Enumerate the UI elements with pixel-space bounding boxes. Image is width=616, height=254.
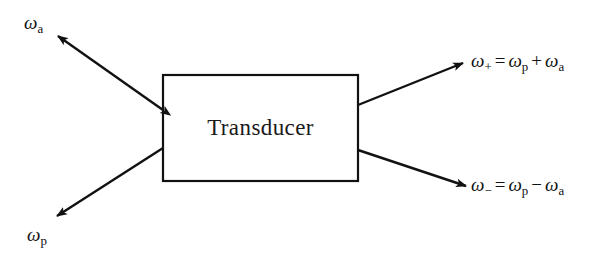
- omega-minus-lhs-subscript: −: [484, 183, 491, 198]
- arrow-omega-plus: [358, 63, 463, 105]
- label-omega-a: ωa: [24, 12, 43, 37]
- omega-plus-operator: +: [528, 50, 545, 71]
- label-omega-minus-equation: ω−=ωp−ωa: [471, 174, 564, 199]
- label-omega-p: ωp: [27, 224, 47, 249]
- transducer-box-label: Transducer: [163, 75, 358, 181]
- arrow-omega-p: [57, 148, 163, 216]
- omega-minus-equals: =: [492, 174, 509, 195]
- omega-a-symbol: ω: [24, 12, 37, 33]
- arrow-omega-a: [58, 36, 163, 110]
- omega-plus-lhs-symbol: ω: [471, 50, 484, 71]
- omega-minus-lhs-symbol: ω: [471, 174, 484, 195]
- omega-a-subscript: a: [37, 21, 43, 36]
- omega-minus-operator: −: [528, 174, 545, 195]
- omega-p-symbol: ω: [27, 224, 40, 245]
- omega-plus-term2-symbol: ω: [545, 50, 558, 71]
- omega-plus-equals: =: [492, 50, 509, 71]
- omega-plus-term2-subscript: a: [558, 59, 564, 74]
- omega-minus-term2-subscript: a: [558, 183, 564, 198]
- arrow-omega-minus: [358, 150, 466, 186]
- omega-plus-lhs-subscript: +: [484, 59, 491, 74]
- omega-p-subscript: p: [40, 233, 46, 248]
- omega-plus-term1-symbol: ω: [508, 50, 521, 71]
- diagram-canvas: Transducer ωa ωp ω+=ωp+ωa ω−=ωp−ωa: [0, 0, 616, 254]
- omega-minus-term2-symbol: ω: [545, 174, 558, 195]
- omega-minus-term1-symbol: ω: [508, 174, 521, 195]
- label-omega-plus-equation: ω+=ωp+ωa: [471, 50, 564, 75]
